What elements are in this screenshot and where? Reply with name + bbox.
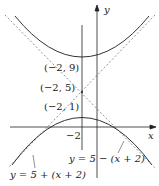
x-axis-arrow-icon [150,125,156,129]
center-point [81,91,83,93]
point-label-vertex-top: (−2, 9) [44,63,79,73]
asymptote-label-decreasing: y = 5 − (x + 2) [69,154,145,164]
asymptote-label-increasing: y = 5 + (x + 2) [10,170,86,180]
leader-right [118,141,124,153]
y-axis-arrow-icon [95,5,99,11]
tick-label-neg2: −2 [66,131,81,141]
leader-left [33,155,35,168]
asymptotes [5,15,155,168]
hyperbola-diagram: y x (−2, 9) (−2, 5) (−2, 1) −2 y = 5 − (… [0,0,159,186]
point-label-center: (−2, 5) [40,83,75,93]
y-axis-label: y [104,5,110,15]
point-label-vertex-bottom: (−2, 1) [44,102,79,112]
x-axis-label: x [148,131,154,141]
